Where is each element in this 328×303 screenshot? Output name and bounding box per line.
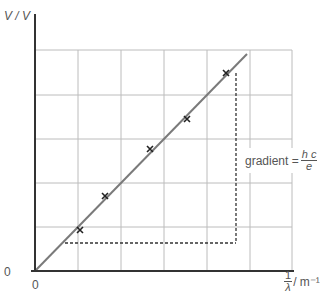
- y-origin-label: 0: [4, 266, 11, 278]
- best-fit-line: [35, 54, 247, 271]
- gradient-annotation: gradient = h c e: [244, 148, 319, 173]
- x-origin-label: 0: [32, 279, 39, 291]
- x-axis-fraction: 1 λ: [284, 270, 292, 293]
- y-axis-label: V / V: [4, 10, 30, 22]
- gradient-triangle: [65, 73, 236, 243]
- gradient-fraction: h c e: [301, 149, 318, 172]
- x-axis-label: 1 λ / m⁻¹: [284, 270, 320, 293]
- axes: [31, 14, 294, 271]
- x-axis-unit: / m⁻¹: [293, 275, 320, 289]
